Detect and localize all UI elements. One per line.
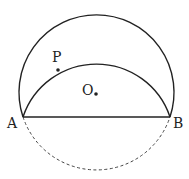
outer-circle-upper-arc (19, 15, 174, 117)
label-o: O (82, 82, 93, 98)
label-p: P (52, 49, 61, 65)
label-b: B (173, 115, 183, 131)
outer-circle-lower-arc-dashed (23, 117, 170, 170)
folded-arc (23, 64, 170, 117)
point-o (94, 92, 98, 96)
point-p (56, 68, 60, 72)
label-a: A (6, 115, 18, 131)
geometry-diagram: A B P O (0, 0, 189, 179)
